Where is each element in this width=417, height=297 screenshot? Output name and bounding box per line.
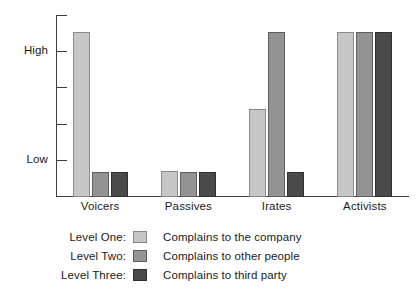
chart-figure: HighLow VoicersPassivesIratesActivists L…	[0, 0, 417, 297]
plot-area	[56, 15, 409, 197]
legend-description: Complains to the company	[147, 231, 302, 243]
bar-group	[161, 15, 216, 197]
legend-level-label: Level Three:	[0, 269, 133, 281]
bar	[375, 32, 392, 197]
bar	[199, 172, 216, 197]
category-label-activists: Activists	[315, 200, 415, 212]
bar-group	[249, 15, 304, 197]
bar	[161, 171, 178, 197]
category-label-passives: Passives	[138, 200, 238, 212]
legend-color-swatch	[133, 250, 147, 262]
bar	[92, 172, 109, 197]
y-axis-tick-label: High	[0, 44, 48, 56]
legend-description: Complains to other people	[147, 250, 300, 262]
legend-row: Level One:Complains to the company	[0, 227, 417, 246]
bar	[337, 32, 354, 197]
bar	[268, 32, 285, 197]
bar	[180, 172, 197, 197]
legend-row: Level Three:Complains to third party	[0, 265, 417, 284]
y-axis-tick-label: Low	[0, 153, 48, 165]
bar	[73, 32, 90, 197]
legend-description: Complains to third party	[147, 269, 287, 281]
bar-group	[73, 15, 128, 197]
legend-level-label: Level One:	[0, 231, 133, 243]
chart-legend: Level One:Complains to the companyLevel …	[0, 227, 417, 284]
legend-level-label: Level Two:	[0, 250, 133, 262]
category-label-irates: Irates	[227, 200, 327, 212]
legend-row: Level Two:Complains to other people	[0, 246, 417, 265]
bar	[287, 172, 304, 197]
category-label-voicers: Voicers	[50, 200, 150, 212]
bar-group	[337, 15, 392, 197]
legend-color-swatch	[133, 231, 147, 243]
legend-color-swatch	[133, 269, 147, 281]
bar	[249, 109, 266, 197]
bar	[356, 32, 373, 197]
bar	[111, 172, 128, 197]
